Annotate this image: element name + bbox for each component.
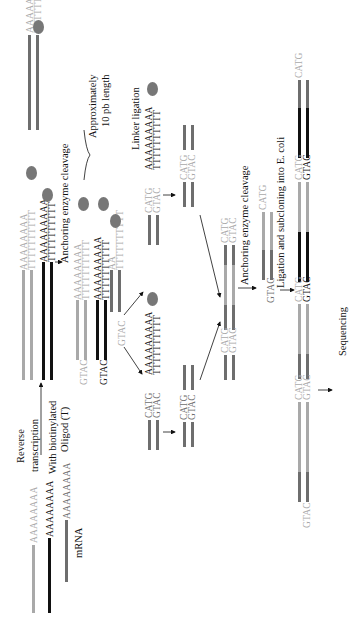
arrow-to-linker-lower [124,347,142,374]
brace-10bp [84,130,90,180]
arrows-layer [0,0,362,640]
arrow-to-ditag-upper [200,215,220,297]
arrow-to-linker-upper [124,292,143,315]
arrow-to-ditag-lower [200,322,220,380]
